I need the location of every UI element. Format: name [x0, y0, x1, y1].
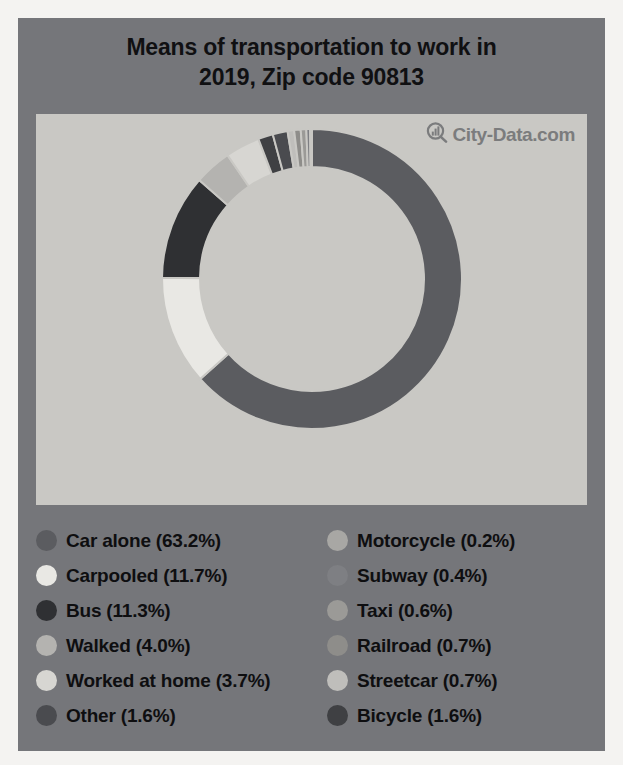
- legend-item-other[interactable]: Other (1.6%): [36, 698, 311, 733]
- legend-item-bus[interactable]: Bus (11.3%): [36, 593, 311, 628]
- legend-item-railroad[interactable]: Railroad (0.7%): [327, 628, 604, 663]
- legend-label-streetcar: Streetcar (0.7%): [357, 670, 497, 692]
- legend-label-taxi: Taxi (0.6%): [357, 600, 453, 622]
- legend-swatch-railroad: [327, 635, 348, 656]
- legend-swatch-carpooled: [36, 565, 57, 586]
- legend-swatch-taxi: [327, 600, 348, 621]
- legend-swatch-worked-at-home: [36, 670, 57, 691]
- legend-label-other: Other (1.6%): [66, 705, 176, 727]
- legend-label-walked: Walked (4.0%): [66, 635, 190, 657]
- legend-swatch-subway: [327, 565, 348, 586]
- legend-item-walked[interactable]: Walked (4.0%): [36, 628, 311, 663]
- donut-slices: [162, 129, 462, 429]
- legend-item-carpooled[interactable]: Carpooled (11.7%): [36, 558, 311, 593]
- chart-page: Means of transportation to work in 2019,…: [0, 0, 623, 765]
- legend-label-carpooled: Carpooled (11.7%): [66, 565, 227, 587]
- chart-card: Means of transportation to work in 2019,…: [18, 18, 605, 751]
- legend-label-railroad: Railroad (0.7%): [357, 635, 491, 657]
- legend-item-taxi[interactable]: Taxi (0.6%): [327, 593, 604, 628]
- legend-swatch-car-alone: [36, 530, 57, 551]
- donut-chart: [36, 114, 587, 505]
- legend-swatch-bus: [36, 600, 57, 621]
- legend-column-right: Motorcycle (0.2%) Subway (0.4%) Taxi (0.…: [311, 523, 604, 738]
- legend-swatch-walked: [36, 635, 57, 656]
- donut-svg: [147, 114, 477, 444]
- legend-label-bus: Bus (11.3%): [66, 600, 170, 622]
- chart-title: Means of transportation to work in 2019,…: [18, 32, 605, 92]
- legend-label-car-alone: Car alone (63.2%): [66, 530, 221, 552]
- legend-item-streetcar[interactable]: Streetcar (0.7%): [327, 663, 604, 698]
- chart-legend: Car alone (63.2%) Carpooled (11.7%) Bus …: [18, 523, 605, 738]
- legend-column-left: Car alone (63.2%) Carpooled (11.7%) Bus …: [18, 523, 311, 738]
- legend-item-subway[interactable]: Subway (0.4%): [327, 558, 604, 593]
- donut-slice-motorcycle[interactable]: [310, 129, 312, 167]
- legend-label-bicycle: Bicycle (1.6%): [357, 705, 482, 727]
- plot-panel: City-Data.com: [36, 114, 587, 505]
- chart-title-line-2: 2019, Zip code 90813: [18, 62, 605, 92]
- legend-item-bicycle[interactable]: Bicycle (1.6%): [327, 698, 604, 733]
- chart-title-line-1: Means of transportation to work in: [18, 32, 605, 62]
- donut-slice-carpooled[interactable]: [162, 278, 229, 379]
- legend-label-motorcycle: Motorcycle (0.2%): [357, 530, 515, 552]
- legend-label-worked-at-home: Worked at home (3.7%): [66, 670, 271, 692]
- legend-item-worked-at-home[interactable]: Worked at home (3.7%): [36, 663, 311, 698]
- legend-swatch-bicycle: [327, 705, 348, 726]
- legend-label-subway: Subway (0.4%): [357, 565, 487, 587]
- legend-swatch-motorcycle: [327, 530, 348, 551]
- legend-swatch-other: [36, 705, 57, 726]
- legend-item-motorcycle[interactable]: Motorcycle (0.2%): [327, 523, 604, 558]
- legend-swatch-streetcar: [327, 670, 348, 691]
- legend-item-car-alone[interactable]: Car alone (63.2%): [36, 523, 311, 558]
